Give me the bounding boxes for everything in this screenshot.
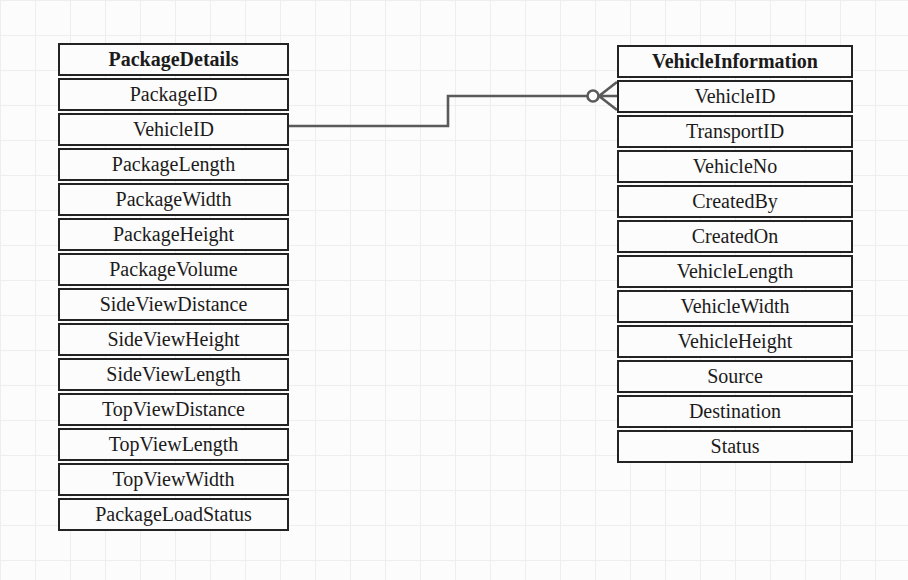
attr-vehicle-width: VehicleWidth (617, 290, 853, 323)
attr-vehicle-no: VehicleNo (617, 150, 853, 183)
attr-created-by: CreatedBy (617, 185, 853, 218)
attr-package-volume: PackageVolume (58, 253, 289, 286)
attr-package-height: PackageHeight (58, 218, 289, 251)
attr-package-width: PackageWidth (58, 183, 289, 216)
attr-source: Source (617, 360, 853, 393)
crow-foot-many-icon (599, 82, 617, 110)
attr-destination: Destination (617, 395, 853, 428)
attr-vehicle-height: VehicleHeight (617, 325, 853, 358)
attr-vehicle-id: VehicleID (58, 113, 289, 146)
er-diagram-canvas: PackageDetails PackageID VehicleID Packa… (0, 0, 908, 580)
attr-side-view-height: SideViewHeight (58, 323, 289, 356)
attr-transport-id: TransportID (617, 115, 853, 148)
entity-package-details: PackageDetails PackageID VehicleID Packa… (58, 43, 289, 531)
attr-side-view-distance: SideViewDistance (58, 288, 289, 321)
zero-cardinality-circle-icon (588, 91, 599, 102)
relationship-line (289, 96, 587, 126)
attr-top-view-width: TopViewWidth (58, 463, 289, 496)
attr-package-id: PackageID (58, 78, 289, 111)
attr-vehicle-id-2: VehicleID (617, 80, 853, 113)
attr-top-view-distance: TopViewDistance (58, 393, 289, 426)
attr-created-on: CreatedOn (617, 220, 853, 253)
attr-package-length: PackageLength (58, 148, 289, 181)
attr-side-view-length: SideViewLength (58, 358, 289, 391)
entity-title-package-details: PackageDetails (58, 43, 289, 76)
attr-status: Status (617, 430, 853, 463)
attr-top-view-length: TopViewLength (58, 428, 289, 461)
attr-package-load-status: PackageLoadStatus (58, 498, 289, 531)
entity-title-vehicle-information: VehicleInformation (617, 45, 853, 78)
entity-vehicle-information: VehicleInformation VehicleID TransportID… (617, 45, 853, 463)
attr-vehicle-length: VehicleLength (617, 255, 853, 288)
